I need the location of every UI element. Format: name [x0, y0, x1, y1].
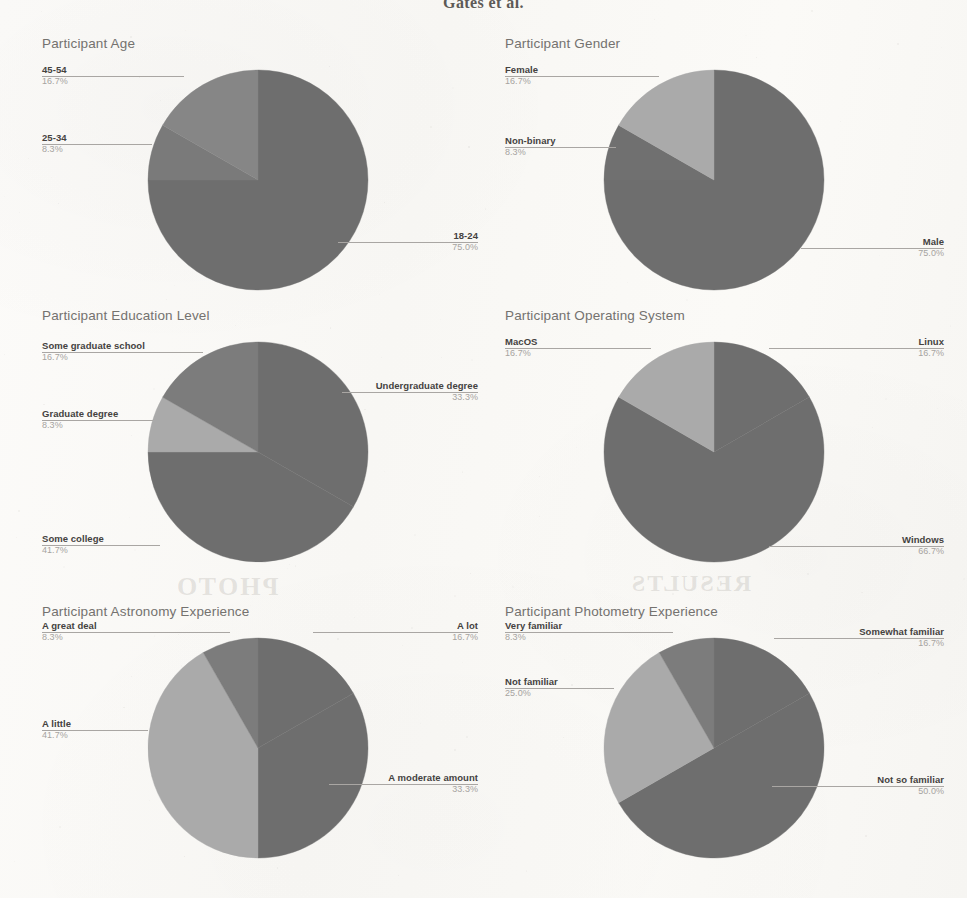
scan-speck — [384, 202, 385, 203]
scan-speck — [672, 593, 674, 595]
callout-percent: 75.0% — [0, 249, 944, 258]
pie-callout-label: Not so familiar50.0% — [0, 775, 944, 796]
pie-callout-label: Undergraduate degree33.3% — [0, 381, 478, 402]
scan-speck — [941, 47, 943, 49]
pie-callout-label: A little41.7% — [42, 719, 71, 740]
scan-speck — [379, 294, 380, 295]
scan-speck — [840, 121, 841, 122]
pie-callout-label: 25-348.3% — [42, 133, 67, 154]
scan-speck — [440, 319, 441, 320]
callout-name: Linux — [0, 337, 944, 347]
pie-svg — [602, 340, 826, 564]
pie-chart-participant-age[interactable] — [146, 68, 370, 292]
callout-percent: 8.3% — [505, 148, 556, 157]
scan-speck — [745, 35, 747, 37]
scan-speck — [756, 57, 757, 58]
scan-speck — [287, 568, 288, 569]
chart-title-participant-gender: Participant Gender — [505, 36, 620, 51]
scan-speck — [512, 586, 513, 587]
scan-speck — [462, 662, 463, 663]
scan-speck — [354, 617, 355, 618]
scan-speck — [51, 177, 52, 178]
scan-speck — [539, 476, 540, 477]
chart-title-participant-education-level: Participant Education Level — [42, 308, 210, 323]
scan-speck — [538, 67, 539, 68]
callout-name: Not familiar — [505, 677, 558, 687]
scan-speck — [248, 589, 249, 590]
pie-chart-participant-gender[interactable] — [602, 68, 826, 292]
pie-callout-label: Graduate degree8.3% — [42, 409, 118, 430]
scan-speck — [398, 875, 399, 876]
callout-percent: 25.0% — [505, 689, 558, 698]
pie-svg — [602, 636, 826, 860]
pie-callout-label: Linux16.7% — [0, 337, 944, 358]
scan-speck — [43, 404, 44, 405]
scan-speck — [19, 212, 20, 213]
scan-speck — [454, 749, 456, 751]
scan-speck — [466, 736, 468, 738]
callout-percent: 50.0% — [0, 787, 944, 796]
callout-percent: 16.7% — [505, 77, 538, 86]
scan-speck — [950, 325, 952, 327]
scan-speck — [384, 471, 385, 472]
scan-speck — [420, 723, 421, 724]
scan-speck — [872, 427, 873, 428]
pie-callout-label: Non-binary8.3% — [505, 136, 556, 157]
scan-speck — [654, 19, 655, 20]
scan-speck — [576, 447, 577, 448]
pie-callout-label: 45-5416.7% — [42, 65, 68, 86]
scan-speck — [14, 861, 15, 862]
pie-callout-label: Male75.0% — [0, 237, 944, 258]
scan-speck — [131, 435, 132, 436]
callout-percent: 66.7% — [0, 547, 944, 556]
scan-speck — [295, 565, 297, 567]
chart-title-participant-photometry-experience: Participant Photometry Experience — [505, 604, 718, 619]
callout-name: 25-34 — [42, 133, 67, 143]
chart-title-participant-age: Participant Age — [42, 36, 135, 51]
ghost-bleed-text-2: RESULTS — [630, 570, 751, 597]
callout-name: Somewhat familiar — [0, 627, 944, 637]
callout-name: Female — [505, 65, 538, 75]
scan-speck — [539, 516, 540, 517]
callout-percent: 16.7% — [42, 77, 68, 86]
pie-callout-label: Female16.7% — [505, 65, 538, 86]
scan-speck — [462, 471, 463, 472]
scan-speck — [63, 566, 65, 568]
pie-svg — [602, 68, 826, 292]
callout-percent: 8.3% — [42, 421, 118, 430]
callout-name: Undergraduate degree — [0, 381, 478, 391]
scan-speck — [471, 359, 473, 361]
pie-chart-participant-photometry-experience[interactable] — [602, 636, 826, 860]
scan-speck — [430, 126, 432, 128]
scan-speck — [468, 146, 469, 147]
pie-chart-participant-operating-system[interactable] — [602, 340, 826, 564]
scan-speck — [564, 659, 565, 660]
scan-speck — [485, 208, 487, 210]
pie-callout-label: Not familiar25.0% — [505, 677, 558, 698]
scan-speck — [878, 673, 879, 674]
scan-speck — [563, 737, 564, 738]
scan-speck — [571, 684, 573, 686]
scan-speck — [18, 510, 20, 512]
scan-speck — [807, 573, 809, 575]
pie-chart-participant-astronomy-experience[interactable] — [146, 636, 370, 860]
pie-svg — [146, 68, 370, 292]
scan-speck — [957, 630, 958, 631]
callout-percent: 8.3% — [42, 145, 67, 154]
scan-speck — [58, 203, 59, 204]
scan-speck — [235, 325, 236, 326]
pie-callout-label: Somewhat familiar16.7% — [0, 627, 944, 648]
callout-name: Male — [0, 237, 944, 247]
pie-chart-participant-education-level[interactable] — [146, 340, 370, 564]
scan-speck — [608, 619, 609, 620]
scan-speck — [59, 826, 61, 828]
chart-title-participant-astronomy-experience: Participant Astronomy Experience — [42, 604, 249, 619]
scan-speck — [129, 517, 130, 518]
scan-speck — [526, 870, 528, 872]
pie-svg — [146, 340, 370, 564]
scan-speck — [885, 398, 887, 400]
callout-percent: 41.7% — [42, 731, 71, 740]
callout-name: Windows — [0, 535, 944, 545]
scan-speck — [676, 622, 677, 623]
scan-speck — [937, 408, 938, 409]
